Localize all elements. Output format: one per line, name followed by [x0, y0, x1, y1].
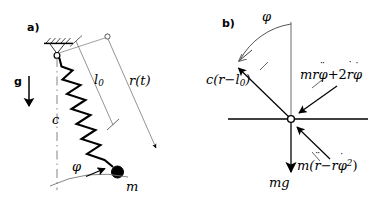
radial-close: ) — [352, 158, 357, 173]
construction-line-top — [59, 37, 108, 53]
dimension-r-line — [108, 39, 156, 148]
angle-arc-phi-b — [240, 24, 291, 60]
panel-a-tag: a) — [27, 22, 39, 33]
figure-drawing — [0, 0, 392, 204]
panel-b-tag: b) — [222, 18, 235, 29]
spring-force-base: c(r−l — [206, 72, 240, 87]
gravity-label: g — [14, 76, 22, 87]
tangential-inertia-mr: mr — [300, 67, 319, 82]
angle-arc-arrow-phi — [86, 169, 105, 177]
tangential-inertia-vector — [299, 86, 337, 113]
force-node-icon — [288, 116, 295, 123]
angle-phi-label-a: φ — [72, 160, 81, 173]
radial-minus: − — [321, 158, 332, 173]
panel-b-group — [228, 22, 368, 172]
radial-inertia-label: m(r¨−rφ˙2) — [297, 159, 358, 172]
natural-length-subscript: 0 — [98, 78, 104, 88]
radius-label: r(t) — [129, 74, 151, 87]
phi-dot-2: φ˙ — [338, 159, 347, 172]
r-double-dot: r¨ — [314, 159, 320, 172]
spring-label-leader — [260, 62, 268, 70]
angle-phi-label-b: φ — [262, 10, 271, 23]
spring-icon — [60, 59, 113, 167]
phi-dot: φ˙ — [353, 68, 362, 81]
phi-double-dot: φ¨ — [319, 68, 328, 81]
tangential-plus: +2 — [328, 67, 347, 82]
support-hatching-icon — [46, 38, 71, 43]
tangential-inertia-label: mrφ¨+2r˙φ˙ — [300, 68, 362, 81]
radial-inertia-m: m( — [297, 158, 314, 173]
dimension-l0-tick-bottom — [107, 119, 119, 130]
pivot-joint-icon — [54, 53, 60, 59]
dimension-origin-joint-icon — [105, 34, 110, 39]
natural-length-label: l0 — [94, 73, 104, 88]
figure-root: a) g c l0 r(t) φ m b) φ c(r−l0) mrφ¨+2r˙… — [0, 0, 392, 204]
spring-stiffness-label: c — [52, 113, 59, 126]
weight-label: mg — [269, 176, 290, 189]
panel-a-group — [29, 34, 156, 190]
dimension-l0-tick-top — [70, 36, 82, 47]
spring-force-close: ) — [245, 72, 250, 87]
mass-label: m — [126, 180, 138, 193]
spring-force-label: c(r−l0) — [206, 73, 250, 88]
